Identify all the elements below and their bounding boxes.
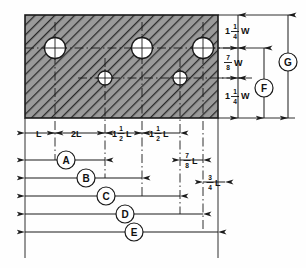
svg-text:L: L	[215, 178, 221, 188]
svg-text:1: 1	[225, 26, 230, 36]
svg-text:L: L	[126, 129, 132, 139]
svg-text:4: 4	[233, 33, 237, 40]
dim-2l: 2L	[71, 129, 82, 139]
svg-text:7: 7	[185, 152, 189, 159]
svg-text:4: 4	[208, 184, 212, 191]
svg-text:1: 1	[112, 129, 117, 139]
svg-text:W: W	[241, 91, 250, 101]
svg-text:E: E	[131, 227, 138, 238]
svg-text:F: F	[261, 83, 267, 94]
dim-1-1-2-l-a: 1 1 2 L	[112, 125, 132, 142]
svg-text:1: 1	[119, 125, 123, 132]
dim-l: L	[36, 129, 42, 139]
svg-text:8: 8	[226, 64, 230, 71]
svg-text:8: 8	[185, 162, 189, 169]
svg-text:A: A	[62, 155, 69, 166]
svg-text:B: B	[82, 173, 89, 184]
svg-text:3: 3	[208, 174, 212, 181]
svg-text:W: W	[241, 26, 250, 36]
hatched-plate	[25, 15, 218, 118]
svg-text:1: 1	[149, 129, 154, 139]
engineering-drawing-canvas: 1 1 4 W 7 8 W 1 1 4 W F G L 2L 1 1	[0, 0, 306, 268]
svg-text:1: 1	[225, 91, 230, 101]
svg-text:L: L	[163, 129, 169, 139]
svg-text:D: D	[121, 209, 128, 220]
svg-text:2: 2	[156, 135, 160, 142]
svg-text:7: 7	[226, 54, 230, 61]
svg-text:G: G	[284, 57, 292, 68]
dim-1-1-2-l-b: 1 1 2 L	[149, 125, 169, 142]
svg-text:1: 1	[233, 88, 237, 95]
svg-text:C: C	[102, 191, 109, 202]
dim-middle-w: 7 8 W	[224, 54, 243, 71]
svg-text:W: W	[234, 58, 243, 68]
svg-text:L: L	[192, 156, 198, 166]
svg-text:2: 2	[119, 135, 123, 142]
svg-text:1: 1	[156, 125, 160, 132]
svg-text:4: 4	[233, 98, 237, 105]
svg-text:1: 1	[233, 23, 237, 30]
